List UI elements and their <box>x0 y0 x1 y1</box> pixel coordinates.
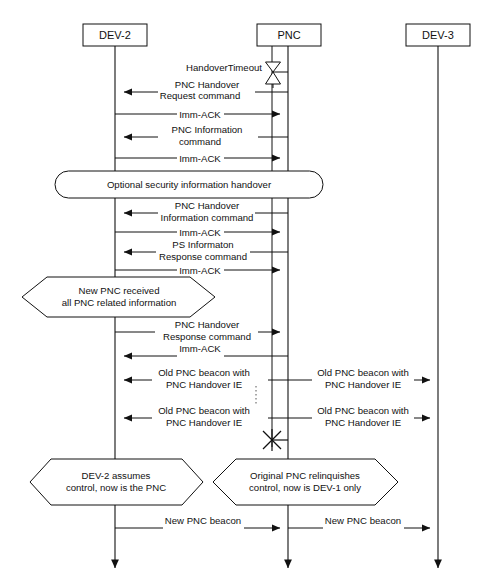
message-m13[interactable]: Old PNC beacon with PNC Handover IE <box>124 405 288 428</box>
message-label-m9-line2: Response command <box>163 331 251 342</box>
message-m14[interactable]: Old PNC beacon with PNC Handover IE <box>288 405 430 428</box>
note-dev2-assumes-control: DEV-2 assumes control, now is the PNC <box>30 459 203 505</box>
message-m5[interactable]: PNC Handover Information command <box>124 200 288 223</box>
message-label-m12-line1: Old PNC beacon with <box>317 367 409 378</box>
message-m4[interactable]: Imm-ACK <box>115 153 280 164</box>
message-label-m2: Imm-ACK <box>179 109 221 120</box>
message-m6[interactable]: Imm-ACK <box>115 227 280 238</box>
destroy-x-icon <box>263 429 288 451</box>
message-m8[interactable]: Imm-ACK <box>115 265 280 276</box>
participant-pnc[interactable]: PNC <box>257 24 321 46</box>
message-m12[interactable]: Old PNC beacon with PNC Handover IE <box>288 367 430 390</box>
participant-dev3[interactable]: DEV-3 <box>406 24 470 46</box>
note-label-n3-line2: control, now is the PNC <box>66 482 166 493</box>
message-m9[interactable]: PNC Handover Response command <box>115 319 280 342</box>
message-label-m9-line1: PNC Handover <box>175 319 240 330</box>
message-m11[interactable]: Old PNC beacon with PNC Handover IE <box>124 367 288 390</box>
message-label-m7-line2: Response command <box>159 251 247 262</box>
message-label-m16: New PNC beacon <box>325 515 401 526</box>
message-label-m4: Imm-ACK <box>179 153 221 164</box>
participant-dev2[interactable]: DEV-2 <box>83 24 147 46</box>
message-label-m13-line1: Old PNC beacon with <box>158 405 250 416</box>
message-m1[interactable]: PNC Handover Request command <box>124 79 288 101</box>
message-label-m13-line2: PNC Handover IE <box>166 417 242 428</box>
message-m10[interactable]: Imm-ACK <box>124 343 288 356</box>
message-label-m8: Imm-ACK <box>179 265 221 276</box>
note-new-pnc-received: New PNC received all PNC related informa… <box>22 277 215 317</box>
note-label-n1: Optional security information handover <box>107 179 272 190</box>
message-label-m3-line2: command <box>179 136 221 147</box>
message-label-m5-line1: PNC Handover <box>175 200 240 211</box>
participant-label-pnc: PNC <box>277 29 300 41</box>
note-optional-security-handover: Optional security information handover <box>55 171 323 198</box>
sequence-diagram-canvas: DEV-2 PNC DEV-3 HandoverTimeout PNC Ha <box>0 0 503 580</box>
diagram-svg: DEV-2 PNC DEV-3 HandoverTimeout PNC Ha <box>0 0 503 580</box>
message-label-m14-line1: Old PNC beacon with <box>317 405 409 416</box>
message-m7[interactable]: PS Informaton Response command <box>124 239 288 262</box>
message-m15[interactable]: New PNC beacon <box>115 515 280 528</box>
message-m2[interactable]: Imm-ACK <box>115 109 280 120</box>
message-label-m1-line1: PNC Handover <box>175 79 240 90</box>
note-label-n2-line2: all PNC related information <box>62 297 177 308</box>
message-label-m15: New PNC beacon <box>165 515 241 526</box>
hourglass-timer-icon <box>266 62 281 84</box>
message-label-m6: Imm-ACK <box>179 227 221 238</box>
message-label-m7-line1: PS Informaton <box>172 239 233 250</box>
participant-label-dev2: DEV-2 <box>99 29 131 41</box>
message-label-m14-line2: PNC Handover IE <box>325 417 401 428</box>
message-label-m5-line2: Information command <box>161 212 254 223</box>
message-label-m11-line1: Old PNC beacon with <box>158 367 250 378</box>
participant-label-dev3: DEV-3 <box>422 29 454 41</box>
message-m16[interactable]: New PNC beacon <box>288 515 430 528</box>
note-label-n4-line1: Original PNC relinquishes <box>250 470 360 481</box>
message-m3[interactable]: PNC Information command <box>124 124 288 147</box>
note-label-n4-line2: control, now is DEV-1 only <box>249 482 361 493</box>
timer-label: HandoverTimeout <box>186 62 262 73</box>
message-label-m12-line2: PNC Handover IE <box>325 379 401 390</box>
message-label-m10: Imm-ACK <box>179 343 221 354</box>
message-label-m1-line2: Request command <box>160 90 241 101</box>
note-original-pnc-relinquishes: Original PNC relinquishes control, now i… <box>213 459 398 505</box>
message-label-m11-line2: PNC Handover IE <box>166 379 242 390</box>
message-label-m3-line1: PNC Information <box>172 124 243 135</box>
note-label-n3-line1: DEV-2 assumes <box>82 470 151 481</box>
note-label-n2-line1: New PNC received <box>78 285 159 296</box>
